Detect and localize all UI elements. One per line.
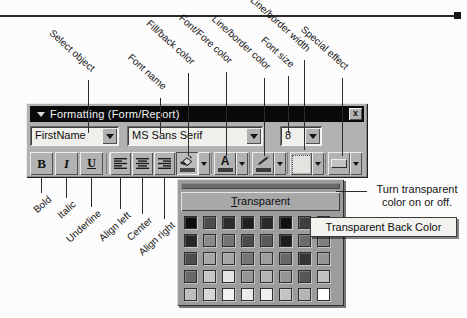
color-swatch[interactable] — [279, 270, 292, 283]
chevron-down-icon — [277, 162, 283, 166]
chevron-down-icon — [106, 134, 114, 139]
swatch-row — [184, 288, 330, 301]
top-rule-endcap — [454, 12, 461, 19]
callout-line-line-border-width — [304, 60, 305, 150]
transparent-note: Turn transparent color on or off. — [368, 183, 466, 209]
note-line-2: color on or off. — [368, 196, 466, 209]
line-border-color-dropdown-button[interactable] — [274, 152, 286, 175]
color-swatch[interactable] — [241, 288, 254, 301]
color-swatch[interactable] — [260, 234, 273, 247]
color-swatch[interactable] — [279, 252, 292, 265]
font-fore-color-button[interactable]: A — [214, 152, 236, 175]
color-swatch[interactable] — [222, 234, 235, 247]
font-size-dropdown-button[interactable] — [305, 128, 320, 144]
raised-effect-sample-icon — [331, 159, 347, 168]
font-name-value: MS Sans Serif — [132, 129, 202, 141]
callout-label-font-name: Font name — [125, 52, 169, 93]
color-swatch[interactable] — [279, 216, 292, 229]
color-swatch[interactable] — [241, 216, 254, 229]
color-swatch[interactable] — [184, 252, 197, 265]
font-size-combo[interactable]: 8 — [280, 126, 322, 146]
color-swatch[interactable] — [279, 234, 292, 247]
callout-line-line-border-color — [264, 78, 265, 156]
swatch-row — [184, 234, 330, 247]
fill-back-color-dropdown-button[interactable] — [198, 152, 210, 175]
color-swatch[interactable] — [260, 216, 273, 229]
callout-line-font-fore-color — [226, 72, 227, 156]
italic-icon: I — [64, 157, 69, 170]
callout-line-font-size — [288, 76, 289, 133]
palette-drag-handle[interactable] — [181, 183, 340, 189]
callout-line-fill-back-color — [188, 73, 189, 156]
color-swatch[interactable] — [184, 288, 197, 301]
align-left-button[interactable] — [110, 152, 131, 175]
color-swatch[interactable] — [260, 288, 273, 301]
callout-label-bold: Bold — [31, 194, 54, 216]
color-swatch[interactable] — [241, 270, 254, 283]
font-name-combo[interactable]: MS Sans Serif — [127, 126, 263, 146]
callout-label-select-object: Select object — [46, 27, 97, 74]
callout-line-bold — [41, 177, 42, 193]
color-swatch[interactable] — [241, 252, 254, 265]
formatting-toolbar: Formatting (Form/Report) x FirstName MS … — [26, 103, 368, 178]
special-effect-dropdown-button[interactable] — [350, 152, 362, 175]
italic-button[interactable]: I — [55, 152, 78, 175]
fill-back-color-button[interactable] — [176, 152, 198, 175]
color-swatch[interactable] — [222, 216, 235, 229]
chevron-down-icon — [315, 162, 321, 166]
paint-bucket-icon — [179, 155, 196, 167]
select-object-combo[interactable]: FirstName — [30, 126, 119, 146]
line-border-color-button[interactable] — [252, 152, 274, 175]
color-swatch[interactable] — [260, 252, 273, 265]
align-right-button[interactable] — [154, 152, 175, 175]
center-button[interactable] — [132, 152, 153, 175]
color-swatch[interactable] — [222, 288, 235, 301]
color-swatch[interactable] — [298, 252, 311, 265]
color-swatch[interactable] — [203, 216, 216, 229]
color-swatch[interactable] — [222, 270, 235, 283]
special-effect-button[interactable] — [328, 152, 350, 175]
transparent-button[interactable]: Transparent — [181, 192, 340, 211]
color-swatch[interactable] — [279, 288, 292, 301]
chevron-down-icon — [353, 162, 359, 166]
line-border-width-dropdown-button[interactable] — [312, 152, 324, 175]
color-swatch[interactable] — [203, 288, 216, 301]
underline-button[interactable]: U — [80, 152, 103, 175]
color-swatch[interactable] — [203, 234, 216, 247]
color-swatch[interactable] — [298, 288, 311, 301]
color-swatch[interactable] — [222, 252, 235, 265]
align-right-icon — [158, 158, 171, 169]
toolbar-menu-triangle-icon[interactable] — [37, 112, 45, 117]
color-swatch[interactable] — [241, 234, 254, 247]
note-line-1: Turn transparent — [368, 183, 466, 196]
border-width-sample-icon — [292, 155, 310, 173]
note-leader-line — [336, 191, 367, 192]
callout-line-center — [142, 177, 143, 214]
transparent-label-rest: ransparent — [237, 195, 290, 207]
tooltip: Transparent Back Color — [310, 217, 457, 237]
back-color-palette-popup: Transparent — [177, 179, 344, 306]
swatch-row — [184, 216, 330, 229]
color-swatch[interactable] — [317, 270, 330, 283]
close-button[interactable]: x — [349, 108, 362, 120]
color-swatch[interactable] — [184, 216, 197, 229]
color-swatch[interactable] — [184, 234, 197, 247]
tooltip-text: Transparent Back Color — [326, 221, 442, 233]
color-swatch[interactable] — [203, 270, 216, 283]
select-object-dropdown-button[interactable] — [102, 128, 117, 144]
color-swatch[interactable] — [317, 288, 330, 301]
font-fore-color-dropdown-button[interactable] — [236, 152, 248, 175]
top-rule — [0, 15, 460, 17]
color-swatch[interactable] — [184, 270, 197, 283]
font-name-dropdown-button[interactable] — [246, 128, 261, 144]
callout-line-align-left — [120, 177, 121, 209]
bold-button[interactable]: B — [30, 152, 53, 175]
color-swatch[interactable] — [317, 252, 330, 265]
chevron-down-icon — [201, 162, 207, 166]
color-swatch[interactable] — [298, 270, 311, 283]
toolbar-titlebar[interactable]: Formatting (Form/Report) x — [30, 106, 364, 122]
line-border-width-button[interactable] — [290, 152, 312, 175]
color-swatch[interactable] — [203, 252, 216, 265]
color-swatch[interactable] — [260, 270, 273, 283]
callout-line-select-object — [88, 80, 89, 133]
